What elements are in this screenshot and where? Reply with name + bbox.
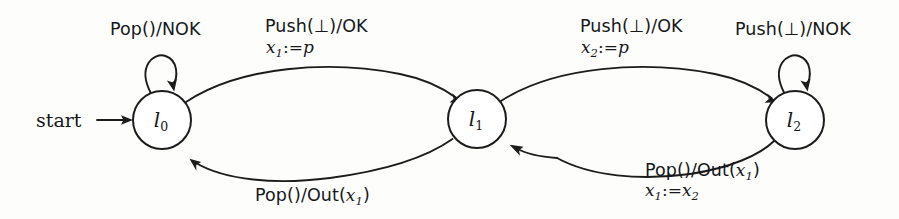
transition-label-pop-nok: Pop()/NOK <box>110 19 201 39</box>
transition-label-push-nok: Push(⊥)/NOK <box>735 19 851 39</box>
transition-label-push-ok-1: Push(⊥)/OK <box>265 16 368 36</box>
assignment-label-x2-p: x2:=p <box>581 37 629 60</box>
automaton-canvas: start Pop()/NOK Push(⊥)/OK x1:=p Push(⊥)… <box>0 0 899 219</box>
transition-l0-to-l1[interactable]: Push(⊥)/OK x1:=p <box>186 16 462 103</box>
transition-label-pop-out-x1-a: Pop()/Out(x1) <box>255 185 370 208</box>
state-node-l2[interactable]: l2 <box>766 91 824 149</box>
edge-l1-l2-path <box>501 67 772 101</box>
edge-l1-l0-path <box>196 139 453 181</box>
state-node-l0[interactable]: l0 <box>133 91 191 149</box>
transition-l1-to-l0[interactable]: Pop()/Out(x1) <box>190 139 453 208</box>
self-loop-l0-arrow-head <box>167 79 177 92</box>
assignment-label-x1-p: x1:=p <box>266 37 314 60</box>
start-marker: start <box>36 109 133 131</box>
edge-l2-l1-path-tail <box>516 148 557 158</box>
state-node-l1[interactable]: l1 <box>448 90 506 148</box>
automaton-diagram: start Pop()/NOK Push(⊥)/OK x1:=p Push(⊥)… <box>0 0 899 219</box>
edge-l0-l1-path <box>186 67 457 102</box>
start-label: start <box>36 109 82 131</box>
transition-label-push-ok-2: Push(⊥)/OK <box>580 16 683 36</box>
transition-l2-self[interactable]: Push(⊥)/NOK <box>735 19 851 93</box>
transition-l2-to-l1[interactable]: Pop()/Out(x1) x1:=x2 <box>510 141 775 203</box>
transition-l0-self[interactable]: Pop()/NOK <box>110 19 201 93</box>
self-loop-l2-arrow-head <box>800 79 810 92</box>
assignment-label-x1-x2: x1:=x2 <box>645 180 699 203</box>
